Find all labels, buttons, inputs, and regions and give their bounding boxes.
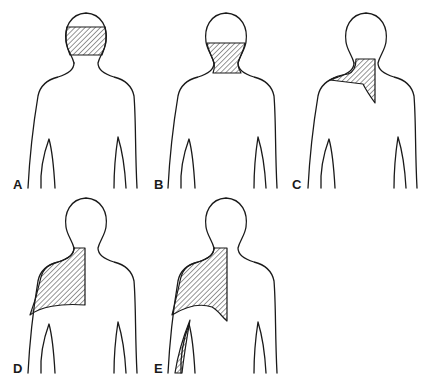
panel-c: C <box>292 13 417 192</box>
panel-label-c: C <box>292 177 302 192</box>
panel-label-d: D <box>13 361 22 376</box>
panel-label-b: B <box>154 177 163 192</box>
panel-b: B <box>154 13 277 192</box>
shaded-region-c <box>330 59 375 103</box>
panel-d: D <box>13 198 137 376</box>
panel-label-a: A <box>13 177 23 192</box>
panel-label-e: E <box>154 361 163 376</box>
shaded-region-e-back <box>172 248 227 321</box>
shaded-region-a <box>66 27 106 55</box>
panel-a: A <box>13 13 137 192</box>
figure-canvas: A B C D E <box>0 0 433 377</box>
panel-e: E <box>154 198 277 376</box>
